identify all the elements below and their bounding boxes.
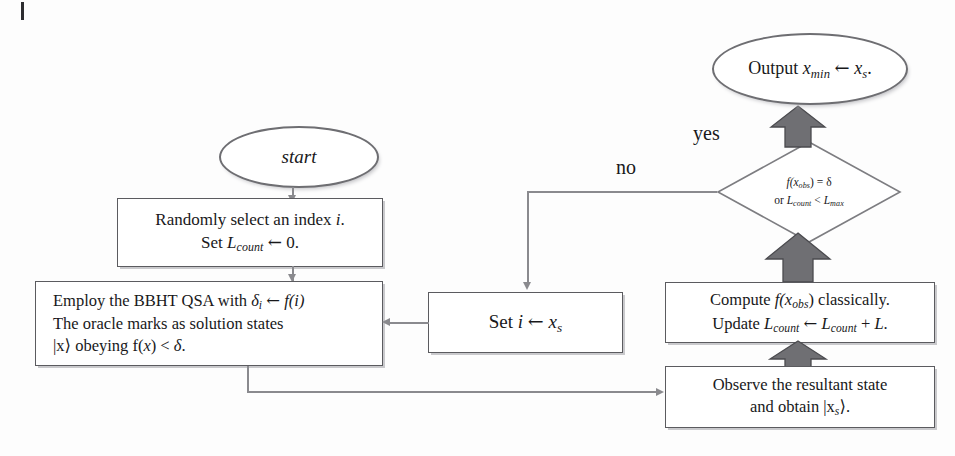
- node-compute-line1: Compute f(xobs) classically.: [710, 289, 890, 312]
- node-bbht-qsa[interactable]: Employ the BBHT QSA with δi ← f(i) The o…: [35, 281, 383, 366]
- block-arrow-compute-to-decision: [762, 231, 834, 283]
- node-observe-line2: and obtain |xs⟩.: [750, 396, 850, 419]
- flowchart-diagram: start Randomly select an index i. Set Lc…: [0, 0, 955, 456]
- node-bbht-qsa-line3: |x⟩ obeying f(x) < δ.: [53, 335, 186, 357]
- node-set-i[interactable]: Set i ← xs: [428, 292, 623, 353]
- node-decision-line2: or Lcount < Lmax: [774, 192, 844, 210]
- connector-seti-to-bbht: [390, 322, 429, 324]
- node-output-label: Output xmin ← xs.: [748, 56, 871, 82]
- connector-bbht-down: [247, 366, 249, 393]
- node-bbht-qsa-line2: The oracle marks as solution states: [53, 313, 283, 335]
- node-initialize[interactable]: Randomly select an index i. Set Lcount ←…: [117, 198, 383, 267]
- arrowhead-no-to-seti: [523, 282, 531, 290]
- connector-no-horizontal: [527, 191, 717, 193]
- edge-label-no: no: [616, 156, 636, 179]
- node-compute[interactable]: Compute f(xobs) classically. Update Lcou…: [665, 282, 935, 343]
- node-initialize-line1: Randomly select an index i.: [155, 209, 344, 231]
- node-decision-line1: f(xobs) = δ: [786, 174, 831, 192]
- block-arrow-yes-to-output: [767, 104, 829, 148]
- node-start[interactable]: start: [219, 126, 379, 188]
- connector-no-vertical: [527, 191, 529, 284]
- node-compute-line2: Update Lcount ← Lcount + L.: [712, 313, 887, 336]
- scan-artifact-tick: [21, 2, 24, 20]
- node-decision[interactable]: f(xobs) = δ or Lcount < Lmax: [716, 140, 902, 244]
- connector-bbht-to-observe: [247, 391, 657, 393]
- node-start-label: start: [282, 144, 317, 169]
- node-output[interactable]: Output xmin ← xs.: [712, 33, 908, 105]
- node-observe[interactable]: Observe the resultant state and obtain |…: [665, 366, 935, 428]
- node-observe-line1: Observe the resultant state: [713, 374, 888, 396]
- node-bbht-qsa-line1: Employ the BBHT QSA with δi ← f(i): [53, 290, 304, 313]
- node-initialize-line2: Set Lcount ← 0.: [201, 231, 299, 256]
- arrowhead-seti-to-bbht: [382, 318, 390, 326]
- arrowhead-bbht-to-observe: [656, 388, 664, 396]
- node-set-i-label: Set i ← xs: [489, 309, 562, 336]
